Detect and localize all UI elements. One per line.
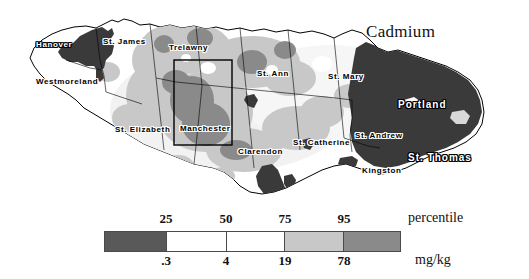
legend-segment-2: [167, 232, 227, 251]
parish-label-st-ann: St. Ann: [257, 69, 289, 78]
parish-label-kingston: Kingston: [362, 166, 401, 175]
legend: 25507595 .341978 percentile mg/kg: [0, 206, 529, 279]
legend-value-tick-19: 19: [279, 253, 292, 269]
legend-percentile-tick-25: 25: [160, 211, 173, 227]
legend-value-tick-4: 4: [223, 253, 230, 269]
legend-segment-3: [227, 232, 286, 251]
legend-segment-5: [344, 232, 400, 251]
parish-label-st-andrew: St. Andrew: [355, 131, 402, 140]
parish-label-trelawny: Trelawny: [169, 43, 208, 52]
parish-label-westmoreland: Westmoreland: [36, 77, 98, 86]
parish-label-st-mary: St. Mary: [328, 72, 364, 81]
legend-segment-4: [285, 232, 344, 251]
parish-label-st-catherine: St. Catherine: [293, 138, 350, 147]
legend-value-tick-pt3: .3: [161, 253, 171, 269]
legend-value-tick-78: 78: [338, 253, 351, 269]
parish-label-st-james: St. James: [103, 37, 146, 46]
legend-segment-1: [105, 232, 167, 251]
legend-color-bar: [104, 231, 401, 252]
parish-label-clarendon: Clarendon: [238, 147, 283, 156]
parish-label-st-thomas: St. Thomas: [408, 152, 472, 163]
parish-label-portland: Portland: [398, 99, 447, 110]
cadmium-map-figure: Cadmium HanoverSt. JamesWestmorelandTrel…: [0, 0, 529, 279]
jamaica-map-svg: [0, 0, 529, 215]
map-area: Cadmium HanoverSt. JamesWestmorelandTrel…: [0, 0, 529, 215]
legend-unit-mgkg: mg/kg: [415, 252, 451, 268]
parish-label-hanover: Hanover: [36, 40, 72, 49]
legend-percentile-tick-75: 75: [279, 211, 292, 227]
legend-percentile-tick-50: 50: [220, 211, 233, 227]
parish-label-manchester: Manchester: [180, 124, 230, 133]
legend-percentile-tick-95: 95: [338, 211, 351, 227]
parish-label-st-elizabeth: St. Elizabeth: [115, 125, 170, 134]
legend-unit-percentile: percentile: [408, 210, 463, 226]
page-title: Cadmium: [366, 22, 435, 42]
